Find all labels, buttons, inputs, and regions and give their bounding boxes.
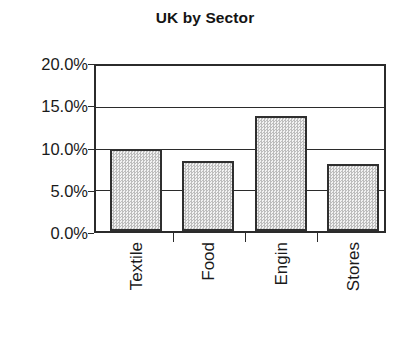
x-axis-label-textile: Textile	[128, 242, 145, 290]
chart-figure: UK by Sector 20.0% 15.0% 10.0% 5.0% 0.0%…	[0, 0, 410, 344]
x-label-slot-engin: Engin	[268, 242, 294, 338]
gridline-15	[96, 107, 384, 108]
x-tick-mark-2	[245, 233, 246, 242]
plot-inner	[96, 66, 384, 231]
y-tick-label-15: 15.0%	[2, 98, 88, 115]
x-axis-label-food: Food	[200, 242, 217, 281]
y-tick-mark-0	[88, 233, 94, 234]
x-tick-mark-3	[317, 233, 318, 242]
x-label-slot-food: Food	[195, 242, 221, 338]
x-tick-mark-1	[173, 233, 174, 242]
x-label-slot-textile: Textile	[123, 242, 149, 338]
plot-area	[94, 64, 386, 233]
y-tick-label-0: 0.0%	[2, 225, 88, 242]
x-label-slot-stores: Stores	[340, 242, 366, 338]
chart-title: UK by Sector	[0, 9, 410, 27]
bar-textile[interactable]	[110, 149, 162, 232]
y-tick-label-5: 5.0%	[2, 183, 88, 200]
bar-stores[interactable]	[327, 164, 379, 231]
bar-food[interactable]	[182, 161, 234, 231]
x-axis-label-engin: Engin	[273, 242, 290, 285]
bar-engin[interactable]	[255, 116, 307, 232]
y-axis: 20.0% 15.0% 10.0% 5.0% 0.0%	[0, 64, 88, 233]
y-tick-label-20: 20.0%	[2, 56, 88, 73]
y-tick-label-10: 10.0%	[2, 141, 88, 158]
x-axis-label-stores: Stores	[345, 242, 362, 291]
